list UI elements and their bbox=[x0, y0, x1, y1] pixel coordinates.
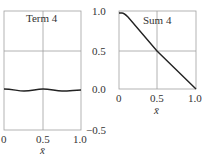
term4-plot bbox=[4, 11, 81, 130]
y-tick-neg-0-5: −0.5 bbox=[86, 125, 106, 136]
term4-frame bbox=[4, 11, 81, 130]
sum4-x-tick-1: 1.0 bbox=[188, 93, 202, 104]
term4-x-tick-0: 0 bbox=[1, 134, 7, 145]
sum4-x-tick-0-5: 0.5 bbox=[150, 93, 164, 104]
y-tick-0: 0.0 bbox=[92, 84, 106, 95]
term4-title: Term 4 bbox=[26, 13, 57, 24]
term4-x-label: x̄ bbox=[40, 145, 45, 155]
y-tick-1: 1.0 bbox=[92, 6, 106, 17]
term4-curve bbox=[4, 89, 81, 91]
y-tick-0-5: 0.5 bbox=[92, 46, 106, 57]
sum4-title: Sum 4 bbox=[143, 15, 171, 26]
sum4-x-label: x̄ bbox=[154, 105, 159, 116]
sum4-x-tick-0: 0 bbox=[116, 93, 122, 104]
term4-x-tick-1: 1.0 bbox=[73, 134, 87, 145]
